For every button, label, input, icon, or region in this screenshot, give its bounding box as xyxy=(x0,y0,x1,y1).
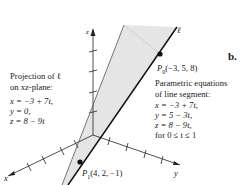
point-p0 xyxy=(157,51,162,56)
x-axis-label: x xyxy=(4,173,8,183)
projection-eq-y: y = 0, xyxy=(10,106,30,116)
segment-eq-y: y = 5 − 3t, xyxy=(155,110,192,120)
segment-eq-x: x = −3 + 7t, xyxy=(155,100,198,110)
panel-label: b. xyxy=(228,51,237,61)
projection-eq-x: x = −3 + 7t, xyxy=(10,96,53,106)
parametric-line-diagram: z x y ℓ b. P0(−3, 5, 8) P1(4, 2, −1) Pro… xyxy=(0,0,244,185)
point-p1 xyxy=(77,159,82,164)
segment-eq-z: z = 8 − 9t, xyxy=(155,120,192,130)
projection-eq-z: z = 8 − 9t xyxy=(10,116,45,126)
line-l-label: ℓ xyxy=(177,25,181,35)
segment-range: for 0 ≤ t ≤ 1 xyxy=(155,130,196,140)
projection-title-2: on xz-plane: xyxy=(10,82,53,92)
segment-title-2: of line segment: xyxy=(155,89,210,99)
p1-label: P1(4, 2, −1) xyxy=(82,168,122,182)
z-axis-label: z xyxy=(86,27,89,37)
segment-title: Parametric equations xyxy=(155,78,227,88)
projection-title: Projection of ℓ xyxy=(10,71,61,81)
y-axis-label: y xyxy=(174,168,178,178)
p0-label: P0(−3, 5, 8) xyxy=(157,63,197,77)
